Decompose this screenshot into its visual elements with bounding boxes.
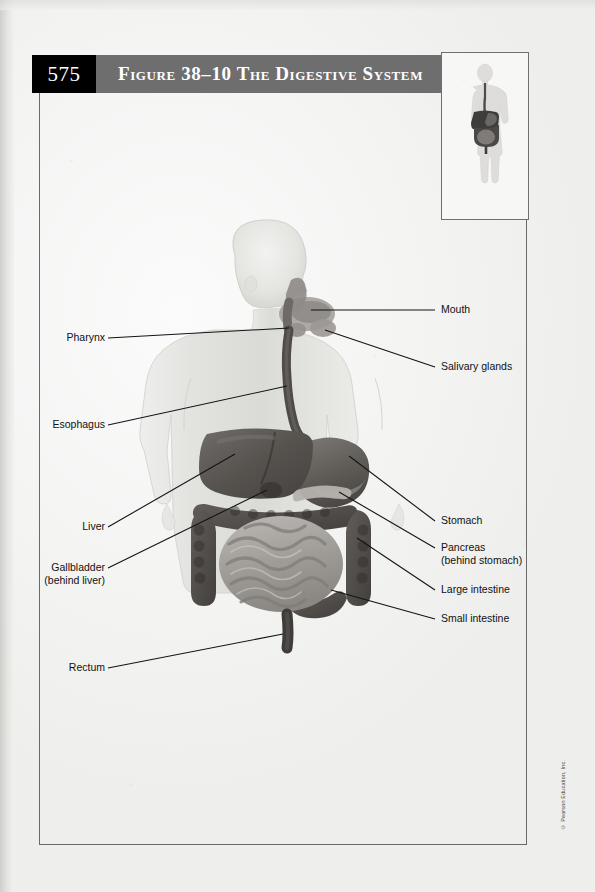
label-pharynx: Pharynx: [39, 331, 105, 344]
label-mouth-text: Mouth: [441, 303, 470, 315]
label-small-intestine: Small intestine: [441, 612, 509, 625]
label-rectum: Rectum: [39, 661, 105, 674]
scanned-page: 575 Figure 38–10 The Digestive System: [0, 0, 595, 892]
label-esophagus: Esophagus: [39, 418, 105, 431]
label-pancreas-sub: (behind stomach): [441, 554, 522, 567]
label-esophagus-text: Esophagus: [52, 418, 105, 430]
label-pharynx-text: Pharynx: [66, 331, 105, 343]
liver-organ: [199, 428, 313, 498]
leader-rectum: [108, 634, 283, 668]
figure-title: Figure 38–10 The Digestive System: [96, 63, 423, 85]
label-large-intestine-text: Large intestine: [441, 583, 510, 595]
label-rectum-text: Rectum: [69, 661, 105, 673]
label-stomach: Stomach: [441, 514, 482, 527]
page-number: 575: [48, 62, 81, 87]
figure-header-bar: 575 Figure 38–10 The Digestive System: [32, 55, 450, 93]
label-large-intestine: Large intestine: [441, 583, 510, 596]
label-stomach-text: Stomach: [441, 514, 482, 526]
label-liver-text: Liver: [82, 520, 105, 532]
thumbnail-body-svg: [442, 53, 528, 219]
label-small-intestine-text: Small intestine: [441, 612, 509, 624]
label-pancreas: Pancreas (behind stomach): [441, 541, 522, 567]
label-gallbladder-sub: (behind liver): [25, 574, 105, 587]
small-intestine-organ: [219, 516, 343, 612]
leader-small-intestine: [331, 590, 435, 619]
label-salivary-glands: Salivary glands: [441, 360, 512, 373]
scan-edge-shadow-top: [0, 0, 595, 10]
body-locator-thumbnail: [441, 52, 529, 220]
scan-edge-shadow-left: [0, 0, 14, 892]
label-salivary-glands-text: Salivary glands: [441, 360, 512, 372]
label-mouth: Mouth: [441, 303, 470, 316]
gallbladder-organ: [260, 482, 282, 498]
page-number-box: 575: [32, 55, 96, 93]
label-gallbladder: Gallbladder (behind liver): [25, 561, 105, 587]
digestive-system-illustration: Pharynx Esophagus Liver Gallbladder (beh…: [39, 218, 527, 688]
label-pancreas-text: Pancreas: [441, 541, 522, 554]
label-gallbladder-text: Gallbladder: [25, 561, 105, 574]
copyright-notice: © Pearson Education, Inc.: [560, 760, 566, 830]
label-liver: Liver: [39, 520, 105, 533]
